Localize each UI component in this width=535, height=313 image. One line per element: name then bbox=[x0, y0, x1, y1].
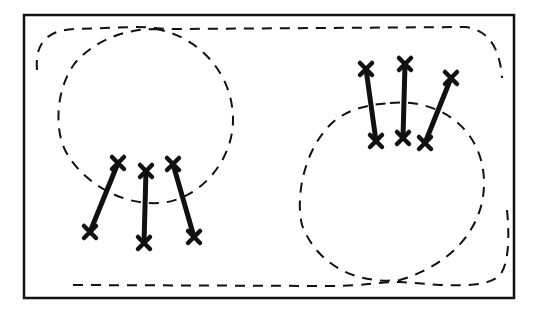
x-markers bbox=[84, 58, 457, 249]
arrow-line bbox=[403, 64, 405, 138]
arrow-line bbox=[366, 69, 376, 141]
diagram-canvas bbox=[0, 0, 535, 313]
arrow-line bbox=[425, 78, 451, 143]
outer-dashed-outline bbox=[37, 27, 502, 78]
frame-border bbox=[24, 15, 514, 298]
arrow-line bbox=[144, 171, 146, 243]
arrow-line bbox=[90, 163, 118, 232]
right-region-dashed-circle bbox=[300, 102, 484, 280]
